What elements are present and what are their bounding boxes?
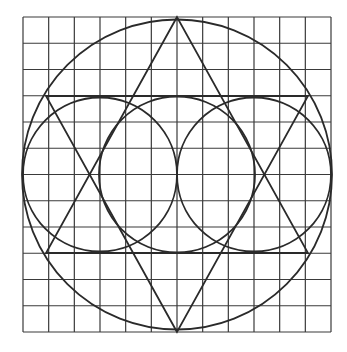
hexagram-grid-diagram <box>0 0 347 352</box>
